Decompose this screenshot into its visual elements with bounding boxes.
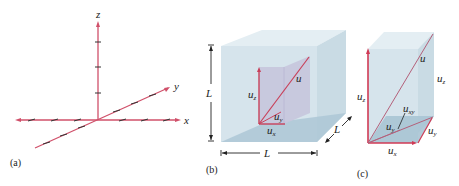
panel-b-caption: (b)	[206, 164, 218, 176]
u-label: u	[420, 52, 426, 64]
dimension-depth-label: L	[333, 123, 340, 135]
y-axis-arrowhead-icon	[164, 87, 170, 92]
z-axis-label: z	[95, 8, 101, 20]
panel-c-caption: (c)	[357, 168, 368, 180]
uy-label: uy	[428, 124, 438, 138]
panel-a-caption: (a)	[10, 157, 21, 169]
uz-left-label: uz	[357, 90, 366, 104]
y-axis-label: y	[173, 80, 179, 92]
x-axis-label: x	[183, 114, 189, 126]
x-axis-arrowhead-icon	[175, 118, 181, 122]
panel-b: u uz uy ux L L L (b)	[205, 30, 352, 176]
panel-c: u uz uz uxy uy uy ux (c)	[357, 32, 446, 180]
uz-right-label: uz	[437, 72, 446, 86]
ux-label: ux	[388, 144, 398, 158]
dimension-horizontal-label: L	[263, 147, 270, 159]
panel-a: z y x (a)	[10, 8, 189, 169]
x-axis-negative-arrowhead-icon	[15, 118, 21, 122]
dimension-vertical-label: L	[205, 87, 212, 99]
y-axis	[35, 88, 168, 148]
figure-canvas: z y x (a) u uz uy ux	[0, 0, 459, 186]
z-axis-arrowhead-icon	[96, 21, 100, 27]
u-label: u	[296, 72, 302, 84]
